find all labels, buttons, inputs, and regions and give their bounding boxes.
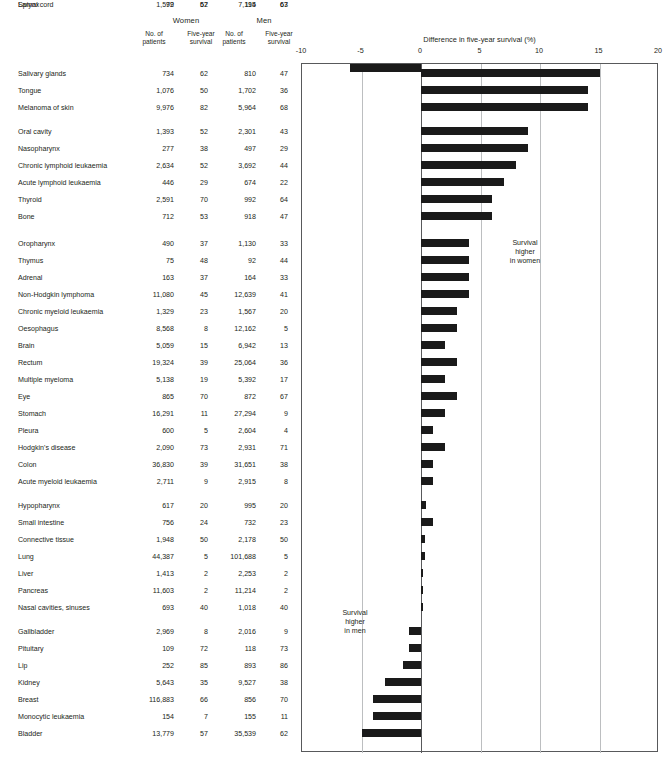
gridline-15	[600, 64, 601, 753]
bar	[385, 678, 421, 686]
x-axis-tick-5: 5	[465, 46, 495, 55]
bar	[421, 69, 600, 77]
bar	[421, 212, 492, 220]
bar	[421, 239, 469, 247]
bar	[421, 586, 423, 594]
bar	[421, 358, 457, 366]
bar	[421, 307, 457, 315]
bar	[421, 144, 528, 152]
bar	[421, 426, 433, 434]
bar	[421, 341, 445, 349]
bar	[421, 409, 445, 417]
bar	[421, 256, 469, 264]
x-axis-tick-0: 0	[405, 46, 435, 55]
bar	[373, 712, 421, 720]
survival-difference-figure: Women Men No. ofpatients Five-yearsurviv…	[0, 0, 671, 764]
bar	[421, 290, 469, 298]
bar	[421, 535, 425, 543]
x-axis-tick-neg10: -10	[286, 46, 316, 55]
bar	[421, 460, 433, 468]
bar	[373, 695, 421, 703]
bar	[421, 273, 469, 281]
plot-area	[301, 63, 658, 752]
bar	[350, 64, 421, 72]
bar	[421, 86, 588, 94]
x-axis-tick-15: 15	[584, 46, 614, 55]
bar	[421, 375, 445, 383]
bar	[362, 729, 422, 737]
chart-title: Difference in five-year survival (%)	[301, 35, 658, 44]
x-axis-tick-20: 20	[643, 46, 671, 55]
bar	[421, 127, 528, 135]
gridline-10	[540, 64, 541, 753]
bar	[421, 477, 433, 485]
bar	[421, 569, 423, 577]
annotation-survival-higher-in-men: Survivalhigherin men	[320, 609, 390, 636]
x-axis-tick-neg5: -5	[346, 46, 376, 55]
bar	[421, 324, 457, 332]
bar	[421, 195, 492, 203]
difference-chart: Difference in five-year survival (%) -10…	[0, 0, 671, 764]
bar	[403, 661, 421, 669]
gridline-neg5	[362, 64, 363, 753]
bar	[421, 501, 426, 509]
bar	[421, 392, 457, 400]
bar	[409, 627, 421, 635]
bar	[421, 552, 425, 560]
bar	[421, 161, 516, 169]
bar	[421, 603, 423, 611]
bar	[421, 103, 588, 111]
bar	[421, 518, 433, 526]
bar	[421, 178, 504, 186]
bar	[409, 644, 421, 652]
annotation-survival-higher-in-women: Survivalhigherin women	[490, 239, 560, 266]
x-axis-tick-10: 10	[524, 46, 554, 55]
bar	[421, 443, 445, 451]
